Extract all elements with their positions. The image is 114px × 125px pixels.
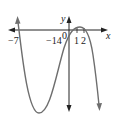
tick-label-1: 1 xyxy=(74,35,79,46)
origin-label: 0 xyxy=(62,30,67,41)
curve-top-arrow-icon xyxy=(15,16,21,24)
x-axis-left-arrow-icon xyxy=(8,28,15,33)
tick-label-neg14: −14 xyxy=(46,35,62,46)
tick-label-neg7: −7 xyxy=(8,35,19,46)
y-axis-down-arrow-icon xyxy=(67,105,72,112)
tick-label-2: 2 xyxy=(81,35,86,46)
x-axis-label: x xyxy=(105,30,111,41)
function-graph: x y 0 −7 −14 1 2 xyxy=(0,0,114,125)
y-axis-up-arrow-icon xyxy=(67,16,72,23)
curve-bottom-arrow-icon xyxy=(97,103,103,111)
y-axis-label: y xyxy=(60,13,66,24)
